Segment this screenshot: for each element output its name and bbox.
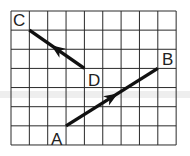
scan-band bbox=[0, 91, 190, 98]
label-a: A bbox=[51, 130, 63, 149]
label-d: D bbox=[88, 71, 100, 90]
vector-grid-diagram: C D B A bbox=[0, 0, 190, 156]
point-labels: C D B A bbox=[13, 11, 173, 149]
label-c: C bbox=[13, 11, 25, 30]
label-b: B bbox=[162, 50, 173, 69]
